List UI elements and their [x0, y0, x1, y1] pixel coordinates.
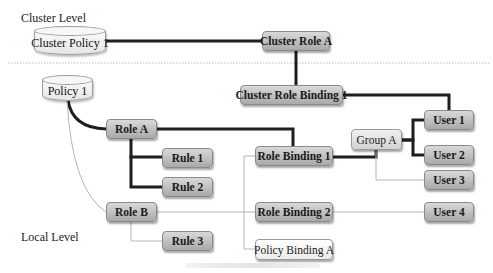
- cluster-policy-1-node[interactable]: Cluster Policy 1: [34, 26, 106, 55]
- edge-policy1-roleb: [67, 100, 106, 212]
- edge-rolebinding1-policybindinga: [244, 156, 255, 249]
- user-4-node[interactable]: User 4: [424, 202, 474, 222]
- role-a-node[interactable]: Role A: [106, 119, 157, 139]
- cluster-role-a-node[interactable]: Cluster Role A: [262, 31, 330, 51]
- edge-groupa-user2: [402, 140, 424, 155]
- policy-1-node[interactable]: Policy 1: [42, 75, 93, 101]
- edge-roleb-rule3: [131, 222, 162, 241]
- edge-policy1-rolea: [68, 100, 106, 129]
- edge-rolebinding1-groupa: [333, 150, 376, 157]
- role-b-node[interactable]: Role B: [106, 202, 157, 222]
- policy-1-label: Policy 1: [48, 84, 88, 99]
- role-binding-1-node[interactable]: Role Binding 1: [255, 146, 333, 166]
- role-binding-2-node[interactable]: Role Binding 2: [255, 202, 333, 222]
- group-a-node[interactable]: Group A: [351, 129, 402, 150]
- rule-1-node[interactable]: Rule 1: [162, 148, 213, 168]
- edge-rolea-rolebinding1: [157, 129, 293, 146]
- user-3-node[interactable]: User 3: [424, 170, 474, 190]
- policy-binding-a-node[interactable]: Policy Binding A: [255, 239, 333, 260]
- edge-clusterbinding-user1: [343, 95, 449, 111]
- cluster-level-label: Cluster Level: [21, 11, 86, 26]
- local-level-label: Local Level: [21, 230, 79, 245]
- figure-caption-blurred: [185, 263, 320, 268]
- cluster-policy-1-label: Cluster Policy 1: [31, 36, 108, 51]
- edge-rolea-rule2: [131, 155, 162, 187]
- edge-groupa-user1: [402, 120, 424, 140]
- rule-2-node[interactable]: Rule 2: [162, 177, 213, 197]
- cluster-role-binding-1-node[interactable]: Cluster Role Binding 1: [240, 85, 343, 105]
- rule-3-node[interactable]: Rule 3: [162, 231, 213, 251]
- user-1-node[interactable]: User 1: [424, 110, 474, 130]
- user-2-node[interactable]: User 2: [424, 145, 474, 165]
- edge-rolea-rule1: [131, 139, 162, 157]
